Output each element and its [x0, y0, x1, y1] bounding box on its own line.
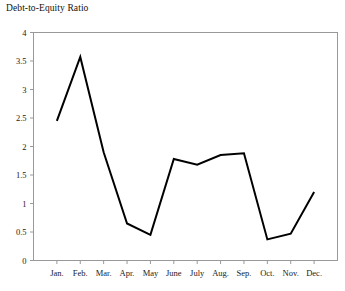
x-axis-ticks: Jan.Feb.Mar.Apr.MayJuneJulyAug.Sep.Oct.N… [50, 261, 322, 278]
svg-text:Dec.: Dec. [306, 268, 322, 278]
svg-text:May: May [143, 268, 159, 278]
svg-text:Nov.: Nov. [283, 268, 299, 278]
svg-text:2.5: 2.5 [16, 113, 27, 123]
svg-text:July: July [190, 268, 205, 278]
y-axis-ticks: 00.511.522.533.54 [16, 28, 34, 266]
svg-text:Mar.: Mar. [96, 268, 112, 278]
svg-text:0: 0 [22, 256, 26, 266]
plot-frame [34, 33, 338, 261]
svg-text:Oct.: Oct. [260, 268, 274, 278]
chart-figure: Debt-to-Equity Ratio 00.511.522.533.54 J… [0, 0, 345, 291]
svg-text:4: 4 [22, 28, 27, 38]
svg-text:Jan.: Jan. [50, 268, 63, 278]
svg-text:3: 3 [22, 85, 26, 95]
svg-text:3.5: 3.5 [16, 56, 27, 66]
svg-text:Feb.: Feb. [73, 268, 88, 278]
svg-text:June: June [166, 268, 182, 278]
svg-text:2: 2 [22, 142, 26, 152]
svg-text:1.5: 1.5 [16, 170, 27, 180]
svg-text:0.5: 0.5 [16, 227, 27, 237]
svg-text:Aug.: Aug. [212, 268, 229, 278]
svg-text:1: 1 [22, 199, 26, 209]
svg-text:Sep.: Sep. [237, 268, 252, 278]
svg-text:Apr.: Apr. [120, 268, 135, 278]
line-chart-plot: 00.511.522.533.54 Jan.Feb.Mar.Apr.MayJun… [0, 0, 345, 291]
